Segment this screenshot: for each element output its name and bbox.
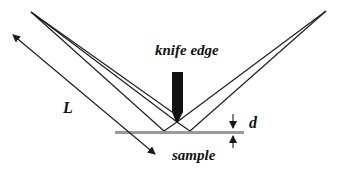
incident-ray-middle (31, 12, 177, 122)
length-arrow (13, 35, 155, 154)
gap-label: d (249, 114, 258, 131)
reflected-ray-4 (190, 11, 326, 131)
knife-edge-label: knife edge (155, 42, 219, 58)
knife-edge-blade (172, 72, 183, 122)
incident-ray-upper (31, 12, 172, 112)
reflected-ray-3 (177, 122, 190, 131)
reflected-ray-1 (164, 122, 177, 131)
reflected-rays (164, 11, 326, 131)
sample-label: sample (171, 147, 216, 163)
knife-edge-diagram: knife edge L d sample (0, 0, 337, 172)
incident-ray-lower (31, 12, 164, 131)
reflected-ray-2 (177, 11, 326, 122)
length-label: L (62, 99, 73, 116)
sample-surface (115, 131, 244, 134)
incident-rays (31, 12, 177, 131)
